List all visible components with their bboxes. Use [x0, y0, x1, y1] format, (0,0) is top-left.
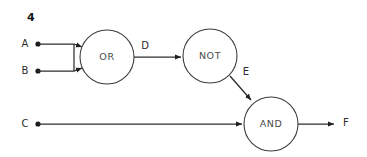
- gate-and-label: AND: [260, 118, 283, 129]
- output-label-f: F: [343, 117, 349, 128]
- figure-number: 4: [27, 11, 35, 24]
- input-label-b: B: [22, 65, 29, 76]
- gate-not-label: NOT: [199, 50, 221, 61]
- wire-e-not-to-and: [230, 76, 251, 100]
- input-label-a: A: [22, 38, 29, 49]
- wire-b-to-or: [38, 68, 82, 71]
- gate-or-label: OR: [99, 51, 114, 62]
- wire-a-to-or: [38, 44, 82, 47]
- wire-label-d: D: [141, 40, 149, 51]
- circuit-canvas: 4 A B C OR NOT AND D E: [0, 0, 367, 157]
- logic-circuit-diagram: 4 A B C OR NOT AND D E: [0, 0, 367, 157]
- input-label-c: C: [22, 118, 29, 129]
- wire-label-e: E: [243, 66, 249, 77]
